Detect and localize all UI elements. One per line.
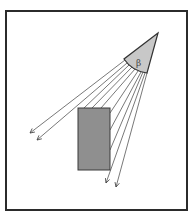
obstacle-rectangle [78, 108, 110, 170]
ray-line [110, 72, 143, 150]
ray-line [110, 71, 138, 113]
ray-line [110, 72, 141, 130]
diagram-svg: β [0, 0, 195, 215]
diagram-canvas: β [0, 0, 195, 215]
source-symbol-label: β [136, 58, 141, 68]
